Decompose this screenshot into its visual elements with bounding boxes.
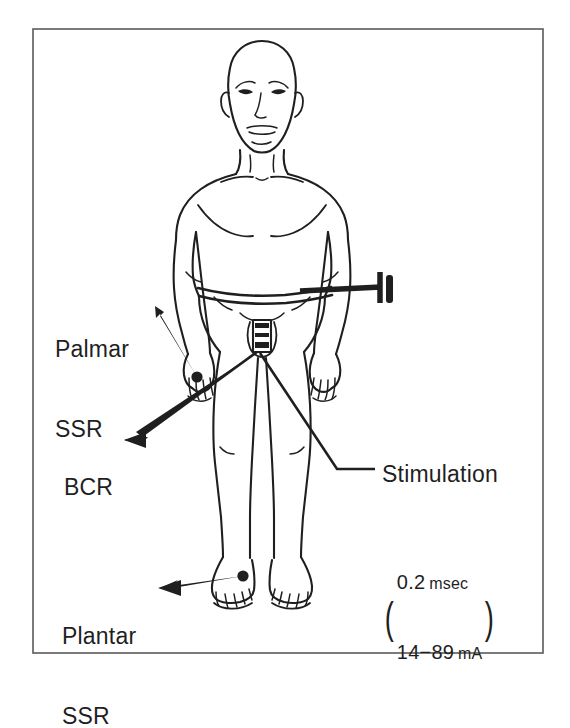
perineal-electrode-contact-3 xyxy=(255,342,269,348)
toe-r2 xyxy=(225,594,228,608)
hand-right-outline xyxy=(184,354,192,388)
finger-l3 xyxy=(318,380,321,399)
label-stimulation: Stimulation ( 0.2msec 14−89mA ) xyxy=(382,424,498,728)
perineal-electrode-contact-2 xyxy=(255,333,269,337)
mouth-lower xyxy=(249,132,275,134)
label-plantar-line2: SSR xyxy=(62,703,136,728)
pectoral-left xyxy=(271,205,326,236)
eye-right xyxy=(238,89,253,94)
stimulation-param-list: 0.2msec 14−89mA xyxy=(397,525,483,711)
plantar-arrowhead xyxy=(158,580,181,596)
mouth-upper xyxy=(247,126,277,128)
neck-right xyxy=(236,150,240,174)
label-bcr-line1: BCR xyxy=(64,474,113,501)
stimulation-duration-unit: msec xyxy=(429,575,468,592)
label-bcr: BCR xyxy=(64,421,113,554)
leg-left-inner xyxy=(266,358,274,558)
stimulation-leader-line xyxy=(260,353,375,469)
label-stimulation-params: ( 0.2msec 14−89mA ) xyxy=(382,525,498,711)
shoulder-left xyxy=(288,174,348,240)
stimulation-current-value: 14−89 xyxy=(397,641,454,663)
inguinal-left xyxy=(272,313,284,320)
label-plantar-line1: Plantar xyxy=(62,623,136,650)
stimulation-current-unit: mA xyxy=(458,645,482,662)
perineal-electrode-contact-1 xyxy=(255,323,269,328)
knee-right xyxy=(220,447,234,454)
palmar-leader-arrow xyxy=(155,306,197,377)
arm-left-outer xyxy=(336,240,350,354)
label-plantar-ssr: Plantar SSR xyxy=(62,570,136,728)
paren-close: ) xyxy=(485,602,494,634)
neck-left xyxy=(284,150,288,174)
toe-r3 xyxy=(234,594,237,607)
knee-left xyxy=(290,447,304,454)
sterno-left xyxy=(273,155,274,172)
head-outline xyxy=(228,41,296,153)
paren-open: ( xyxy=(385,602,394,634)
stimulation-duration-value: 0.2 xyxy=(397,571,425,593)
leg-right-inner xyxy=(250,358,258,558)
ground-bar-horizontal xyxy=(300,287,381,291)
human-figure xyxy=(174,41,393,609)
brow-left xyxy=(269,82,288,88)
brow-right xyxy=(236,82,255,88)
eye-left xyxy=(271,89,286,94)
chin-crease xyxy=(252,142,271,144)
ground-terminal-block xyxy=(386,275,393,303)
leg-left-outer xyxy=(301,352,311,557)
shoulder-right xyxy=(176,174,236,240)
toe-l2 xyxy=(296,594,299,608)
pectoral-right xyxy=(198,205,253,236)
inguinal-right xyxy=(240,313,252,320)
hand-left-outline xyxy=(332,354,340,388)
stimulation-duration-row: 0.2msec xyxy=(397,571,483,595)
label-stimulation-title: Stimulation xyxy=(382,461,498,488)
toe-l3 xyxy=(287,594,290,607)
nose xyxy=(255,93,266,118)
sterno-right xyxy=(250,155,251,172)
finger-l2 xyxy=(325,380,328,400)
arm-right-outer xyxy=(174,240,188,354)
label-palmar-line1: Palmar xyxy=(55,336,129,363)
sternal-notch xyxy=(256,178,268,180)
foot-left-outline xyxy=(270,557,312,603)
bcr-leader-line xyxy=(139,352,257,438)
stimulation-current-row: 14−89mA xyxy=(397,641,483,665)
